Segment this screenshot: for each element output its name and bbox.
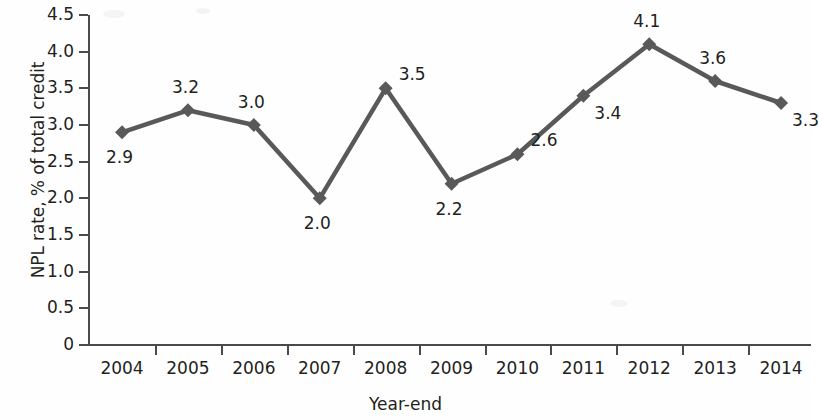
data-point-label: 3.5 — [399, 66, 426, 83]
data-point-label: 2.9 — [106, 149, 133, 166]
series-line — [122, 44, 781, 198]
data-point-marker — [115, 125, 129, 139]
data-point-marker — [181, 103, 195, 117]
data-point-label: 3.2 — [172, 79, 199, 96]
data-point-label: 4.1 — [633, 13, 660, 30]
x-axis-title: Year-end — [0, 394, 811, 414]
data-point-label: 3.6 — [699, 50, 726, 67]
series-markers — [115, 37, 788, 205]
data-point-label: 3.4 — [594, 105, 621, 122]
data-point-label: 3.0 — [238, 94, 265, 111]
data-point-label: 2.2 — [436, 201, 463, 218]
data-point-label: 3.3 — [792, 112, 819, 129]
data-point-label: 2.6 — [530, 132, 557, 149]
data-point-label: 2.0 — [304, 215, 331, 232]
data-point-marker — [774, 96, 788, 110]
